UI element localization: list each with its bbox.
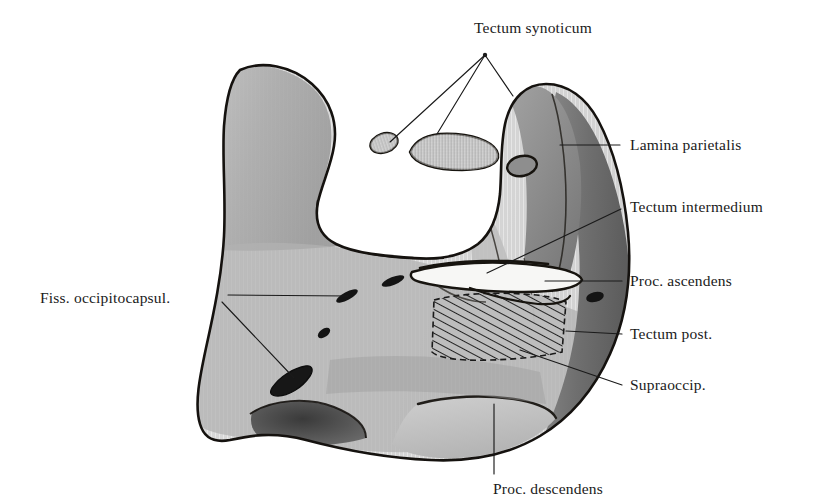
leader-tectum-synoticum-2 bbox=[437, 55, 485, 134]
label-proc-ascendens: Proc. ascendens bbox=[630, 273, 732, 289]
label-tectum-synoticum: Tectum synoticum bbox=[474, 20, 592, 36]
leader-tectum-synoticum-3 bbox=[485, 55, 513, 96]
leader-tectum-synoticum-1 bbox=[390, 55, 485, 142]
specimen-illustration bbox=[0, 0, 836, 500]
fragment-small-oval bbox=[368, 130, 401, 157]
leader-fan-node bbox=[483, 53, 487, 57]
anatomical-figure: Tectum synoticum Lamina parietalis Tectu… bbox=[0, 0, 836, 500]
label-proc-descendens: Proc. descendens bbox=[493, 481, 603, 497]
label-tectum-post: Tectum post. bbox=[630, 326, 712, 342]
label-fiss-occipitocapsul: Fiss. occipitocapsul. bbox=[40, 290, 170, 306]
fragment-elongate bbox=[410, 134, 498, 170]
label-lamina-parietalis: Lamina parietalis bbox=[630, 137, 741, 153]
label-supraoccip: Supraoccip. bbox=[630, 377, 706, 393]
proc-descendens-lobe bbox=[392, 397, 556, 459]
label-tectum-intermedium: Tectum intermedium bbox=[630, 199, 763, 215]
